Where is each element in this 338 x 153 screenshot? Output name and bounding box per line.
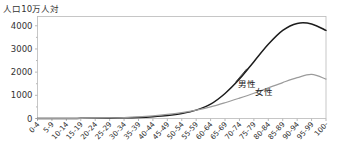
y-tick-label: 2000 <box>11 67 33 77</box>
chart-svg: 01000200030004000 0-45-910-1415-1920-242… <box>0 0 338 153</box>
series-annotations: 男性女性 <box>236 69 273 97</box>
y-tick-label: 4000 <box>11 21 33 31</box>
plot-frame <box>38 17 327 119</box>
y-tick-label: 1000 <box>11 90 33 100</box>
x-tick-labels: 0-45-910-1415-1920-2425-2930-3435-3940-4… <box>27 120 330 142</box>
female-series-label: 女性 <box>255 87 273 97</box>
plot-area: 01000200030004000 0-45-910-1415-1920-242… <box>0 0 338 153</box>
series-lines <box>38 23 327 119</box>
series-line-female <box>38 74 327 118</box>
series-line-male <box>38 23 327 119</box>
y-tick-labels: 01000200030004000 <box>11 21 33 124</box>
male-series-label: 男性 <box>238 79 256 89</box>
chart-container: 人口10万人対 01000200030004000 0-45-910-1415-… <box>0 0 338 153</box>
x-tick-label: 100- <box>312 120 330 138</box>
y-tick-label: 3000 <box>11 44 33 54</box>
